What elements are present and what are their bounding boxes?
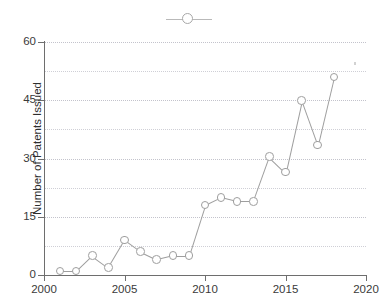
x-tick: [125, 275, 126, 281]
x-tick-label: 2015: [273, 283, 299, 295]
data-point: [88, 251, 97, 260]
legend-marker-icon: [182, 13, 193, 24]
data-point: [249, 197, 258, 206]
x-tick: [366, 275, 367, 281]
data-point: [152, 255, 161, 264]
chart-legend: [166, 12, 212, 26]
y-tick-label: 60: [0, 36, 36, 48]
patents-line-chart: 015304560 20002005201020152020 Number of…: [0, 0, 387, 308]
data-point: [281, 168, 290, 177]
x-tick: [205, 275, 206, 281]
series-segment: [189, 205, 206, 256]
gridline-minor: [44, 188, 366, 189]
y-tick: [38, 217, 45, 218]
data-point: [169, 251, 178, 260]
gridline-major: [44, 217, 366, 218]
data-point: [297, 96, 306, 105]
gridline-minor: [44, 71, 366, 72]
plot-area: [44, 42, 366, 275]
series-segment: [318, 77, 335, 145]
data-point: [136, 247, 145, 256]
data-point: [104, 263, 113, 272]
data-point: [185, 251, 194, 260]
x-tick-label: 2005: [112, 283, 138, 295]
y-tick: [38, 42, 45, 43]
y-tick-label: 0: [0, 269, 36, 281]
data-point: [265, 152, 274, 161]
gridline-major: [44, 159, 366, 160]
data-point: [330, 73, 339, 82]
x-tick: [44, 275, 45, 281]
gridline-major: [44, 100, 366, 101]
gridline-minor: [44, 129, 366, 130]
scan-speck: [354, 62, 356, 65]
series-segment: [301, 100, 318, 145]
x-tick-label: 2020: [353, 283, 379, 295]
x-tick-label: 2000: [31, 283, 57, 295]
series-segment: [286, 100, 303, 172]
gridline-minor: [44, 246, 366, 247]
x-tick-label: 2010: [192, 283, 218, 295]
series-segment: [253, 157, 270, 202]
gridline-major: [44, 42, 366, 43]
data-point: [233, 197, 242, 206]
data-point: [201, 201, 210, 210]
data-point: [120, 236, 129, 245]
x-tick: [286, 275, 287, 281]
y-axis-title: Number of Patents Issued: [31, 82, 43, 215]
data-point: [217, 193, 226, 202]
data-point: [313, 141, 322, 150]
